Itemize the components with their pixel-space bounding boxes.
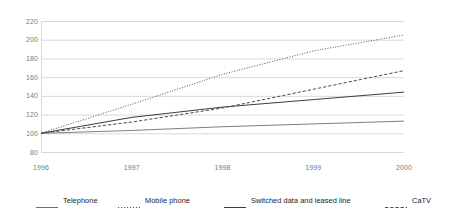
legend-item[interactable]: CaTV bbox=[385, 186, 431, 215]
legend-swatch-icon bbox=[118, 197, 140, 205]
x-tick-label: 1999 bbox=[291, 164, 335, 171]
legend-item[interactable]: Switched data and leased line bbox=[224, 186, 351, 215]
x-tick-label: 1996 bbox=[19, 164, 63, 171]
legend-label: Switched data and leased line bbox=[251, 197, 351, 205]
x-axis-tick-labels: 19961997199819992000 bbox=[0, 0, 449, 186]
legend-swatch-icon bbox=[224, 197, 246, 205]
legend-swatch-icon bbox=[385, 197, 407, 205]
x-tick-label: 1997 bbox=[110, 164, 154, 171]
chart-legend: TelephoneMobile phoneSwitched data and l… bbox=[0, 186, 449, 215]
legend-label: Telephone bbox=[63, 197, 98, 205]
x-tick-label: 1998 bbox=[201, 164, 245, 171]
x-tick-label: 2000 bbox=[382, 164, 426, 171]
legend-item[interactable]: Telephone bbox=[36, 186, 98, 215]
line-chart: 80100120140160180200220 1996199719981999… bbox=[0, 0, 449, 215]
legend-label: CaTV bbox=[412, 197, 431, 205]
legend-swatch-icon bbox=[36, 197, 58, 205]
legend-item[interactable]: Mobile phone bbox=[118, 186, 190, 215]
legend-label: Mobile phone bbox=[145, 197, 190, 205]
